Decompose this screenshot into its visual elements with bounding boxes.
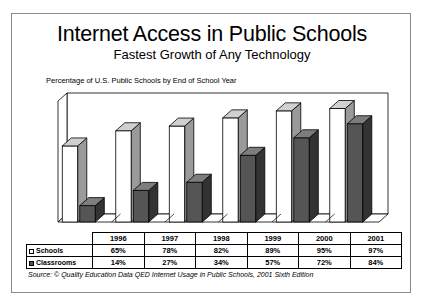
series-legend-classrooms: Classrooms: [27, 257, 93, 269]
page-title: Internet Access in Public Schools: [12, 22, 412, 46]
series-legend-schools: Schools: [27, 245, 93, 257]
table-header-row: 199619971998199920002001: [27, 233, 402, 245]
data-table: 199619971998199920002001Schools65%78%82%…: [26, 232, 402, 269]
legend-swatch-icon: [29, 249, 34, 254]
table-cell: 97%: [350, 245, 402, 257]
table-row: Classrooms14%27%34%57%72%84%: [27, 257, 402, 269]
bar-classrooms-1999-side: [256, 147, 265, 222]
table-cell: 34%: [196, 257, 248, 269]
series-legend-label: Classrooms: [36, 259, 76, 266]
bar-schools-1996-front: [62, 146, 78, 222]
table-column-header: 1998: [196, 233, 248, 245]
source-note: Source: © Quality Education Data QED Int…: [28, 270, 313, 279]
chart-page: Internet Access in Public Schools Fastes…: [0, 0, 421, 306]
bar-classrooms-2001-side: [363, 116, 372, 222]
table-column-header: 2000: [299, 233, 351, 245]
bar-schools-2000-front: [276, 111, 292, 222]
table-cell: 72%: [299, 257, 351, 269]
bar-schools-1998-front: [169, 126, 185, 222]
bar-schools-2001-front: [330, 109, 346, 222]
legend-swatch-icon: [29, 261, 34, 266]
table-cell: 95%: [299, 245, 351, 257]
bar-chart-svg: [26, 87, 402, 234]
bar-classrooms-2001-front: [347, 124, 363, 222]
table-cell: 82%: [196, 245, 248, 257]
table-cell: 65%: [93, 245, 145, 257]
table-cell: 14%: [93, 257, 145, 269]
chart-card: Internet Access in Public Schools Fastes…: [11, 13, 411, 293]
bar-classrooms-1998-front: [187, 182, 203, 222]
table-column-header: 1999: [247, 233, 299, 245]
bar-chart-plot: [26, 87, 402, 234]
series-legend-label: Schools: [36, 247, 63, 254]
bar-classrooms-2000-side: [309, 130, 318, 222]
data-table-wrapper: 199619971998199920002001Schools65%78%82%…: [26, 232, 402, 269]
axis-note-label: Percentage of U.S. Public Schools by End…: [46, 76, 237, 85]
table-cell: 78%: [144, 245, 196, 257]
bar-classrooms-2000-front: [294, 138, 310, 222]
bar-schools-1999-front: [223, 118, 239, 222]
bar-classrooms-1997-front: [133, 190, 149, 222]
table-row: Schools65%78%82%89%95%97%: [27, 245, 402, 257]
table-cell: 27%: [144, 257, 196, 269]
table-column-header: 1997: [144, 233, 196, 245]
table-cell: 57%: [247, 257, 299, 269]
table-column-header: 1996: [93, 233, 145, 245]
bar-classrooms-1999-front: [240, 155, 256, 222]
table-cell: 89%: [247, 245, 299, 257]
table-column-header: 2001: [350, 233, 402, 245]
table-corner-cell: [27, 233, 93, 245]
bar-classrooms-1996-front: [80, 206, 96, 222]
table-cell: 84%: [350, 257, 402, 269]
page-subtitle: Fastest Growth of Any Technology: [12, 47, 412, 62]
bar-schools-1997-front: [116, 131, 132, 222]
